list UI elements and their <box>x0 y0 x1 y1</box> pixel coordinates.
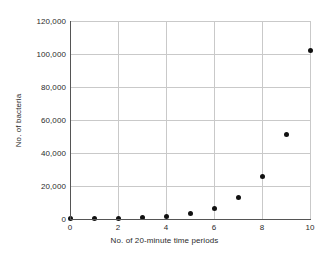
gridline-horizontal <box>70 54 310 55</box>
gridline-vertical <box>118 21 119 219</box>
plot-area <box>70 21 310 219</box>
gridline-horizontal <box>70 186 310 187</box>
x-axis-tick-label: 10 <box>306 223 315 232</box>
data-point <box>260 174 265 179</box>
y-axis-line <box>70 21 71 220</box>
data-point <box>212 206 217 211</box>
gridline-horizontal <box>70 87 310 88</box>
y-axis-tick-label: 40,000 <box>41 149 66 158</box>
x-axis-tick-label: 0 <box>68 223 72 232</box>
x-axis-tick-label: 6 <box>212 223 216 232</box>
data-point <box>236 195 241 200</box>
gridline-horizontal <box>70 153 310 154</box>
y-axis-tick-labels: 020,00040,00060,00080,000100,000120,000 <box>0 0 66 255</box>
x-axis-tick-label: 2 <box>116 223 120 232</box>
y-axis-title-container: No. of bacteria <box>12 0 26 240</box>
gridline-vertical <box>214 21 215 219</box>
bacteria-growth-scatter-chart: 020,00040,00060,00080,000100,000120,000 … <box>0 0 329 255</box>
gridline-vertical <box>262 21 263 219</box>
y-axis-tick-label: 100,000 <box>36 50 66 59</box>
y-axis-tick-label: 120,000 <box>36 17 66 26</box>
data-point <box>308 48 313 53</box>
gridline-horizontal <box>70 21 310 22</box>
y-axis-tick-label: 20,000 <box>41 182 66 191</box>
x-axis-tick-label: 8 <box>260 223 264 232</box>
data-point <box>188 211 193 216</box>
gridline-vertical <box>166 21 167 219</box>
y-axis-tick-label: 60,000 <box>41 116 66 125</box>
x-axis-title: No. of 20-minute time periods <box>0 236 329 245</box>
y-axis-tick-label: 0 <box>61 215 66 224</box>
gridline-horizontal <box>70 120 310 121</box>
y-axis-tick-label: 80,000 <box>41 83 66 92</box>
x-axis-tick-label: 4 <box>164 223 168 232</box>
y-axis-title: No. of bacteria <box>15 93 24 147</box>
x-axis-line <box>70 219 311 220</box>
data-point <box>284 132 289 137</box>
